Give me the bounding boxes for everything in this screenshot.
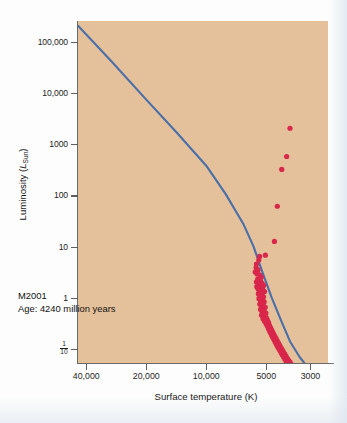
y-axis-title-subscript: Sun xyxy=(22,152,29,164)
star-data-point xyxy=(287,126,292,131)
y-tick-mark xyxy=(71,195,78,196)
x-tick-mark xyxy=(206,364,207,370)
scan-edge-shading xyxy=(329,0,347,423)
y-tick-mark xyxy=(71,42,78,43)
x-axis-title: Surface temperature (K) xyxy=(78,391,334,402)
y-tick-label: 10,000 xyxy=(0,88,68,98)
x-tick-mark xyxy=(310,364,311,370)
cluster-name-label: M2001 xyxy=(18,289,115,302)
y-tick-label: 110 xyxy=(0,341,68,356)
cluster-annotation: M2001 Age: 4240 million years xyxy=(18,289,115,315)
x-tick-mark xyxy=(266,364,267,370)
y-axis-title-symbol: L xyxy=(17,163,28,168)
y-axis-title-close: ) xyxy=(17,148,28,151)
y-axis-title: Luminosity (LSun) xyxy=(17,109,30,259)
star-data-point xyxy=(275,204,280,209)
y-tick-label: 100,000 xyxy=(0,37,68,47)
hr-diagram-figure: 100,00010,0001000100101110 40,00020,0001… xyxy=(0,0,347,423)
cluster-age-label: Age: 4240 million years xyxy=(18,302,115,315)
star-data-point xyxy=(263,253,268,258)
star-data-point xyxy=(279,167,284,172)
x-tick-mark xyxy=(146,364,147,370)
star-data-point xyxy=(272,239,277,244)
y-tick-label: 10 xyxy=(0,242,68,252)
star-points-group xyxy=(253,126,313,363)
x-tick-label: 40,000 xyxy=(54,371,118,381)
y-tick-mark xyxy=(71,144,78,145)
plot-area xyxy=(78,21,328,363)
x-tick-label: 10,000 xyxy=(174,371,238,381)
y-tick-label: 100 xyxy=(0,190,68,200)
plot-canvas xyxy=(78,21,328,363)
y-axis-title-main: Luminosity ( xyxy=(17,169,28,221)
y-tick-mark xyxy=(71,247,78,248)
x-tick-label: 3000 xyxy=(278,371,342,381)
x-tick-mark xyxy=(86,364,87,370)
y-tick-mark xyxy=(71,349,78,350)
star-data-point xyxy=(284,154,289,159)
y-tick-label: 1000 xyxy=(0,139,68,149)
x-tick-label: 20,000 xyxy=(114,371,178,381)
y-tick-mark xyxy=(71,93,78,94)
